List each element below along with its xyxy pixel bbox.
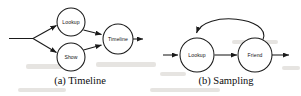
panel-a-node-show-label: Show — [64, 54, 77, 60]
panel-a-node-timeline-label: Timeline — [108, 36, 128, 42]
panel-a-caption: (a) Timeline — [54, 75, 106, 87]
panel-a-node-lookup-label: Lookup — [62, 19, 79, 25]
panel-b-node-friend[interactable]: Friend — [238, 38, 272, 72]
panel-b-node-lookup-label: Lookup — [188, 52, 205, 58]
panel-b-node-lookup[interactable]: Lookup — [180, 38, 214, 72]
panel-b-node-friend-label: Friend — [247, 52, 262, 58]
figure-canvas: Lookup Show Timeline (a) Timeline — [0, 0, 301, 96]
panel-a-node-timeline[interactable]: Timeline — [103, 24, 133, 54]
panel-b-caption: (b) Sampling — [198, 75, 254, 87]
panel-a-node-show[interactable]: Show — [57, 43, 85, 71]
panel-a-node-lookup[interactable]: Lookup — [57, 8, 85, 36]
